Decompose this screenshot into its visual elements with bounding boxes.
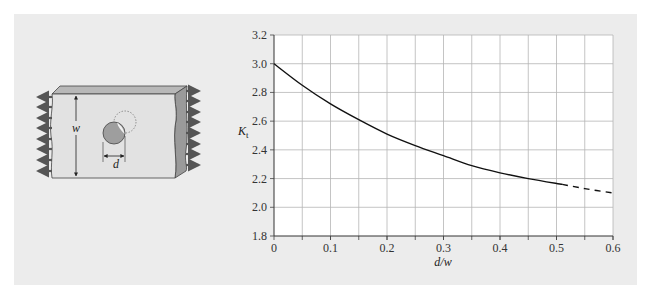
y-tick-label: 1.8 <box>252 229 267 243</box>
y-tick-label: 2.4 <box>252 143 267 157</box>
plate-top-face <box>52 86 187 94</box>
y-tick-label: 3.0 <box>252 57 267 71</box>
plate-diagram: w d <box>38 86 199 178</box>
y-tick-label: 2.2 <box>252 172 267 186</box>
right-tension-arrows <box>186 91 199 165</box>
x-tick-label: 0.3 <box>436 241 451 255</box>
diameter-label: d <box>113 157 120 171</box>
width-label: w <box>72 121 80 135</box>
left-tension-arrows <box>38 97 52 171</box>
x-tick-label: 0.4 <box>493 241 508 255</box>
y-tick-label: 2.8 <box>252 85 267 99</box>
x-tick-label: 0.1 <box>323 241 338 255</box>
figure-svg: w d <box>0 0 649 298</box>
plate-side-face <box>175 86 188 178</box>
kt-chart: 1.82.02.22.42.62.83.03.200.10.20.30.40.5… <box>237 28 621 269</box>
x-tick-label: 0 <box>271 241 277 255</box>
y-tick-label: 2.0 <box>252 200 267 214</box>
x-axis-label: d/w <box>434 255 451 269</box>
x-tick-label: 0.5 <box>549 241 564 255</box>
x-tick-label: 0.6 <box>606 241 621 255</box>
y-axis-label: Kt <box>237 124 249 140</box>
y-tick-label: 2.6 <box>252 114 267 128</box>
x-tick-label: 0.2 <box>380 241 395 255</box>
y-tick-label: 3.2 <box>252 28 267 42</box>
hole <box>103 122 125 144</box>
